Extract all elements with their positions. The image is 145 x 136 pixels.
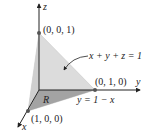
plane-equation-label: x + y + z = 1 <box>88 50 142 61</box>
x-intercept-label: (1, 0, 0) <box>31 113 63 125</box>
y-axis-label: y <box>135 76 141 87</box>
point-x-intercept <box>26 109 30 113</box>
region-label: R <box>42 94 49 105</box>
tetrahedron-diagram: z y x (0, 0, 1) (0, 1, 0) (1, 0, 0) x + … <box>0 0 145 136</box>
z-intercept-label: (0, 0, 1) <box>43 24 75 36</box>
x-axis-label: x <box>21 121 27 132</box>
boundary-equation-label: y = 1 − x <box>76 94 115 105</box>
point-y-intercept <box>93 88 97 92</box>
z-axis-label: z <box>42 1 47 12</box>
point-z-intercept <box>37 31 41 35</box>
y-intercept-label: (0, 1, 0) <box>95 76 127 88</box>
